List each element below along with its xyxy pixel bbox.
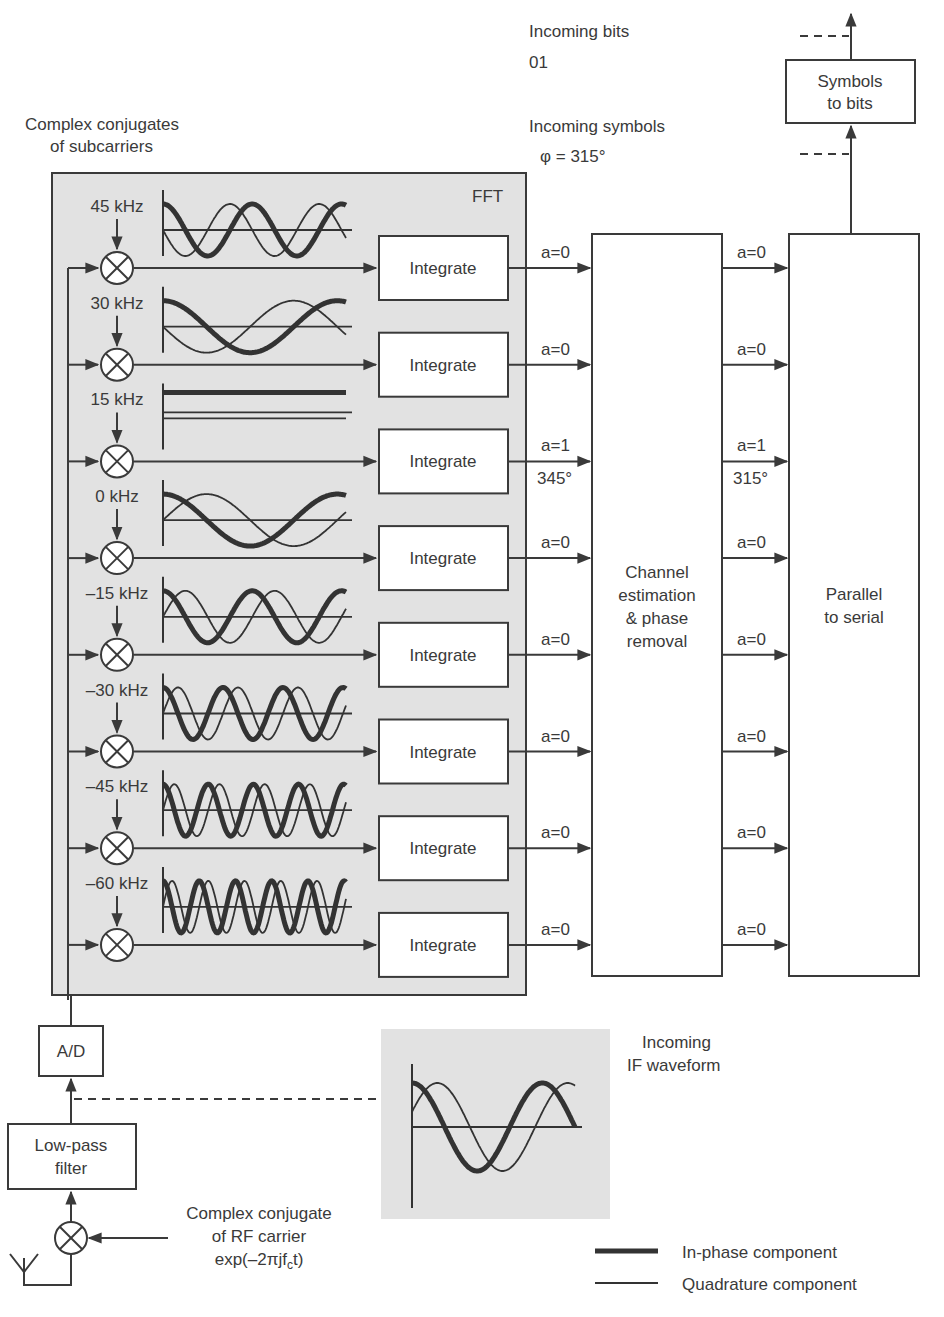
integrate-label: Integrate [409, 743, 476, 762]
subcarrier-caption-2: of subcarriers [50, 137, 153, 156]
symbols-to-bits-block [786, 60, 915, 123]
symbol-amplitude-in: a=0 [541, 727, 570, 746]
channel-estimation-label-3: & phase [626, 609, 688, 628]
subcarrier-frequency-label: 30 kHz [91, 294, 144, 313]
symbol-amplitude-out: a=0 [737, 823, 766, 842]
symbols-to-bits-label-2: to bits [827, 94, 872, 113]
ofdm-receiver-diagram: Incoming bits 01 Incoming symbols φ = 31… [0, 0, 944, 1317]
symbol-amplitude-out: a=0 [737, 243, 766, 262]
symbol-amplitude-out: a=0 [737, 727, 766, 746]
if-caption-2: IF waveform [627, 1056, 721, 1075]
channel-estimation-label-2: estimation [618, 586, 695, 605]
symbol-amplitude-out: a=1 [737, 436, 766, 455]
integrate-label: Integrate [409, 646, 476, 665]
channel-estimation-block [592, 234, 722, 976]
low-pass-label-1: Low-pass [35, 1136, 108, 1155]
parallel-to-serial-label-1: Parallel [826, 585, 883, 604]
symbol-amplitude-in: a=0 [541, 823, 570, 842]
symbol-amplitude-out: a=0 [737, 533, 766, 552]
integrate-label: Integrate [409, 452, 476, 471]
if-caption-1: Incoming [642, 1033, 711, 1052]
symbol-amplitude-in: a=0 [541, 533, 570, 552]
symbol-phase-out: 315° [733, 469, 768, 488]
incoming-bits-value: 01 [529, 53, 548, 72]
symbol-amplitude-out: a=0 [737, 630, 766, 649]
symbol-phase-in: 345° [537, 469, 572, 488]
incoming-bits-label: Incoming bits [529, 22, 629, 41]
symbol-amplitude-out: a=0 [737, 920, 766, 939]
symbols-to-bits-label-1: Symbols [817, 72, 882, 91]
subcarrier-frequency-label: –15 kHz [86, 584, 148, 603]
low-pass-filter-block [8, 1124, 136, 1189]
symbol-amplitude-out: a=0 [737, 340, 766, 359]
channel-estimation-label-1: Channel [625, 563, 688, 582]
symbol-amplitude-in: a=0 [541, 630, 570, 649]
rf-caption-3: exp(–2πjfct) [215, 1250, 304, 1272]
rf-caption-2: of RF carrier [212, 1227, 307, 1246]
parallel-to-serial-block [789, 234, 919, 976]
ad-label: A/D [57, 1042, 85, 1061]
incoming-symbols-phase: φ = 315° [540, 147, 606, 166]
integrate-label: Integrate [409, 259, 476, 278]
channel-estimation-label-4: removal [627, 632, 687, 651]
subcarrier-frequency-label: –30 kHz [86, 681, 148, 700]
subcarrier-frequency-label: 45 kHz [91, 197, 144, 216]
subcarrier-frequency-label: 15 kHz [91, 390, 144, 409]
integrate-label: Integrate [409, 839, 476, 858]
rf-caption-1: Complex conjugate [186, 1204, 332, 1223]
integrate-label: Integrate [409, 936, 476, 955]
symbol-amplitude-in: a=0 [541, 920, 570, 939]
subcarrier-frequency-label: –45 kHz [86, 777, 148, 796]
symbol-amplitude-in: a=0 [541, 340, 570, 359]
subcarrier-caption-1: Complex conjugates [25, 115, 179, 134]
low-pass-label-2: filter [55, 1159, 87, 1178]
fft-label: FFT [472, 187, 503, 206]
symbol-amplitude-in: a=0 [541, 243, 570, 262]
antenna-feed [24, 1254, 71, 1285]
integrate-label: Integrate [409, 549, 476, 568]
subcarrier-frequency-label: –60 kHz [86, 874, 148, 893]
legend-in-phase-label: In-phase component [682, 1243, 837, 1262]
integrate-label: Integrate [409, 356, 476, 375]
parallel-to-serial-label-2: to serial [824, 608, 884, 627]
subcarrier-frequency-label: 0 kHz [95, 487, 138, 506]
symbol-amplitude-in: a=1 [541, 436, 570, 455]
incoming-symbols-label: Incoming symbols [529, 117, 665, 136]
legend-quadrature-label: Quadrature component [682, 1275, 857, 1294]
